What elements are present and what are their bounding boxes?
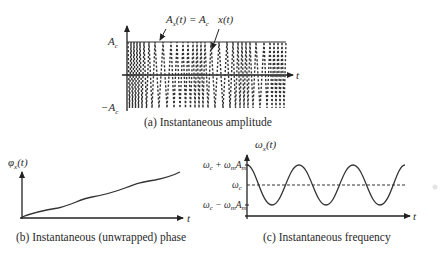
panel-c-x-label: t — [413, 210, 417, 222]
panel-a-ymin-label: −Ac — [101, 101, 119, 116]
panel-a-envelope-label: Ax(t) = Ac — [165, 13, 210, 28]
diagram-canvas: Ac −Ac t Ax(t) = Ac x(t) (a) Instantaneo… — [0, 0, 446, 256]
panel-a-amplitude: Ac −Ac t Ax(t) = Ac x(t) (a) Instantaneo… — [101, 13, 300, 129]
panel-b-phase: φx(t) t (b) Instantaneous (unwrapped) ph… — [8, 156, 191, 244]
panel-b-y-label: φx(t) — [8, 156, 28, 171]
panel-a-caption: (a) Instantaneous amplitude — [144, 116, 272, 129]
panel-b-caption: (b) Instantaneous (unwrapped) phase — [16, 231, 186, 244]
scan-artifact — [433, 185, 438, 190]
panel-c-caption: (c) Instantaneous frequency — [263, 231, 391, 244]
panel-c-tick-bottom-label: ωc − ωmAm — [203, 200, 247, 212]
panel-a-signal-label: x(t) — [217, 13, 234, 26]
panel-a-envelope-pointer — [160, 29, 166, 40]
panel-b-phase-curve — [22, 172, 180, 217]
panel-a-signal-pointer — [212, 29, 219, 49]
panel-c-frequency-curve — [247, 165, 405, 205]
panel-b-x-label: t — [187, 212, 191, 224]
panel-c-tick-top-label: ωc + ωmAm — [203, 160, 247, 172]
panel-a-x-label: t — [296, 69, 300, 81]
panel-c-frequency: ωx(t) ωc + ωmAm ωc ωc − ωmAm t (c) Insta… — [203, 138, 417, 244]
panel-a-ymax-label: Ac — [107, 35, 119, 50]
panel-c-y-label: ωx(t) — [255, 138, 277, 153]
panel-c-tick-mid-label: ωc — [232, 180, 243, 192]
